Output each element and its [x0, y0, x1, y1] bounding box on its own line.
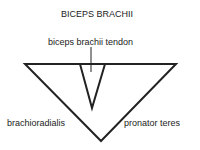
brachioradialis-label: brachioradialis	[7, 118, 65, 128]
pronator-teres-label: pronator teres	[124, 118, 180, 128]
inner-v-tendon	[80, 64, 105, 108]
outer-triangle	[25, 64, 176, 141]
